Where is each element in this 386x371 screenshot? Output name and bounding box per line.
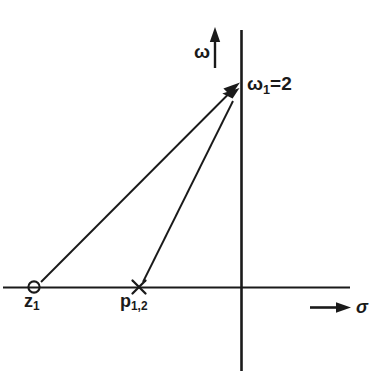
- zero-label-subscript: 1: [33, 299, 40, 313]
- pole-label-subscript: 1,2: [131, 299, 148, 313]
- plot-canvas: [0, 0, 386, 371]
- zero-label-symbol: z: [24, 291, 33, 311]
- vector-zero-to-test-point: [41, 83, 240, 283]
- zero-label: z1: [24, 292, 40, 310]
- omega-direction-arrow-icon: [210, 27, 220, 68]
- pole-label-symbol: p: [120, 291, 131, 311]
- test-point-label: ω1=2: [247, 74, 292, 93]
- test-point-label-symbol: ω: [247, 73, 263, 94]
- test-point-label-value: =2: [270, 73, 292, 94]
- vector-pole-to-test-point: [143, 88, 240, 282]
- sigma-direction-arrow-icon: [310, 302, 351, 313]
- sigma-axis-label: σ: [356, 298, 368, 316]
- test-point-label-subscript: 1: [263, 83, 270, 97]
- omega-axis-label: ω: [194, 42, 210, 61]
- pole-label: p1,2: [120, 292, 148, 310]
- pole-zero-diagram: ω ω1=2 z1 p1,2 σ: [0, 0, 386, 371]
